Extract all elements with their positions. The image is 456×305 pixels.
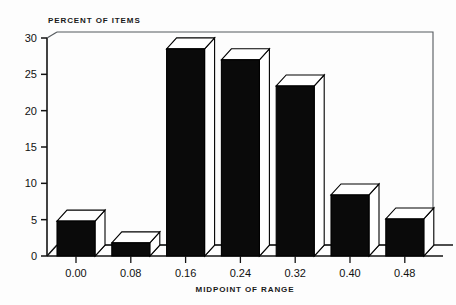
y-tick-label: 10 xyxy=(25,177,37,189)
y-axis-title: PERCENT OF ITEMS xyxy=(48,16,141,25)
y-tick-label: 20 xyxy=(25,105,37,117)
bar-side-face xyxy=(369,184,379,256)
bar-0-16 xyxy=(167,38,215,256)
x-tick-label: 0.48 xyxy=(394,267,415,279)
y-tick-label: 5 xyxy=(31,214,37,226)
bar-side-face xyxy=(259,49,269,256)
floor-depth-connector xyxy=(47,245,57,256)
bar-0-32 xyxy=(276,75,324,256)
y-axis-ticks: 051015202530 xyxy=(25,32,47,262)
bar-front-face xyxy=(331,195,369,256)
x-tick-label: 0.00 xyxy=(65,267,86,279)
bar-front-face xyxy=(386,219,424,256)
bar-0-08 xyxy=(112,232,160,256)
bar-front-face xyxy=(221,60,259,256)
bar-side-face xyxy=(314,75,324,256)
bar-front-face xyxy=(167,49,205,256)
x-axis-title: MIDPOINT OF RANGE xyxy=(196,285,295,294)
x-axis-ticks: 0.000.080.160.240.320.400.48 xyxy=(65,256,415,279)
x-tick-label: 0.40 xyxy=(339,267,360,279)
bar-series xyxy=(57,38,434,256)
bar-side-face xyxy=(205,38,215,256)
y-tick-label: 30 xyxy=(25,32,37,44)
x-tick-label: 0.24 xyxy=(230,267,251,279)
bar-0-00 xyxy=(57,210,105,256)
bar-front-face xyxy=(57,221,95,256)
x-tick-label: 0.16 xyxy=(175,267,196,279)
y-tick-label: 25 xyxy=(25,68,37,80)
x-tick-label: 0.32 xyxy=(284,267,305,279)
y-axis-depth-connector-top xyxy=(47,32,57,38)
y-axis xyxy=(47,32,57,256)
bar-front-face xyxy=(276,86,314,256)
chart-canvas: PERCENT OF ITEMS 051015202530 0.000.080.… xyxy=(0,0,456,305)
bar-front-face xyxy=(112,243,150,256)
y-tick-label: 0 xyxy=(31,250,37,262)
bar-0-40 xyxy=(331,184,379,256)
bar-0-24 xyxy=(221,49,269,256)
y-tick-label: 15 xyxy=(25,141,37,153)
bar-chart-figure: PERCENT OF ITEMS 051015202530 0.000.080.… xyxy=(0,0,456,305)
bar-0-48 xyxy=(386,208,434,256)
x-tick-label: 0.08 xyxy=(120,267,141,279)
